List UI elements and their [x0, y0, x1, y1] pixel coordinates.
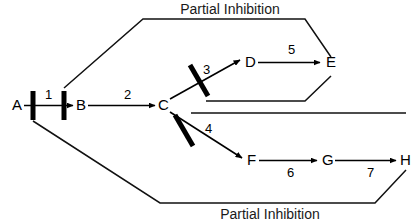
- pathway-diagram: A B C D E F G H 1 2 3 4 5 6 7 Partial In…: [0, 0, 415, 224]
- step-label-5: 5: [288, 42, 295, 57]
- step-label-1: 1: [45, 87, 52, 102]
- node-label-g: G: [322, 151, 334, 168]
- node-label-e: E: [326, 53, 336, 70]
- node-label-f: F: [247, 151, 256, 168]
- node-label-b: B: [76, 96, 86, 113]
- node-label-d: D: [245, 53, 256, 70]
- step-label-7: 7: [367, 165, 374, 180]
- caption-partial-inhibition-bottom: Partial Inhibition: [220, 206, 320, 222]
- step-label-3: 3: [203, 62, 210, 77]
- node-label-h: H: [400, 151, 411, 168]
- feedback-loop-bottom: [33, 121, 406, 203]
- feedback-loop-top-return: [206, 76, 331, 101]
- step-label-6: 6: [287, 165, 294, 180]
- inhibition-bar-step-4: [175, 115, 193, 146]
- step-label-2: 2: [124, 87, 131, 102]
- step-label-4: 4: [205, 121, 212, 136]
- node-label-a: A: [12, 96, 22, 113]
- caption-partial-inhibition-top: Partial Inhibition: [180, 1, 280, 17]
- node-label-c: C: [158, 96, 169, 113]
- pathway-canvas: A B C D E F G H 1 2 3 4 5 6 7 Partial In…: [0, 0, 415, 224]
